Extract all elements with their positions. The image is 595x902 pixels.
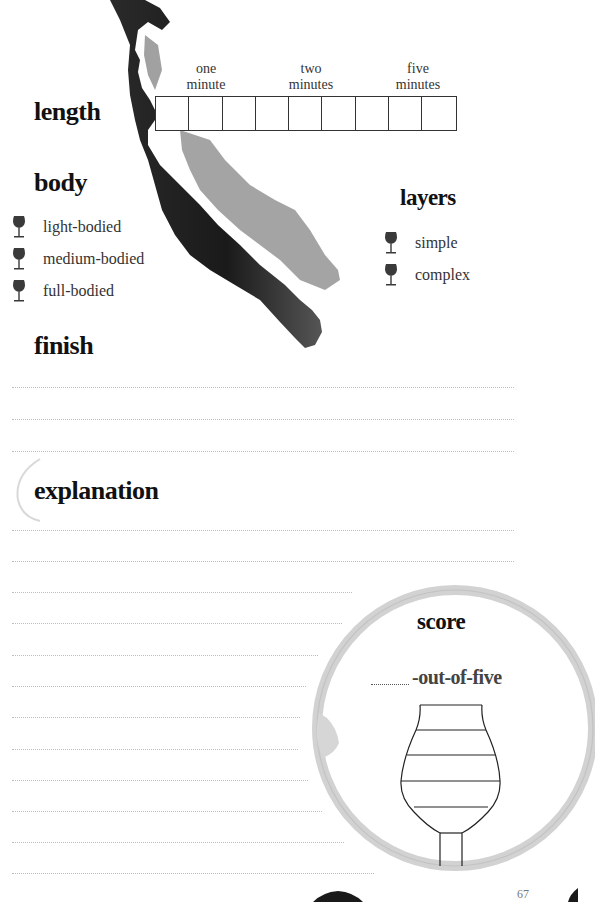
explanation-line-5[interactable] [12,655,318,656]
length-box-8[interactable] [389,97,422,130]
body-option-label: light-bodied [43,218,121,236]
length-box-1[interactable] [156,97,189,130]
layers-option-label: complex [415,266,470,284]
layers-heading: layers [400,185,456,211]
stain-blot-bottom [313,890,363,902]
body-option-full[interactable]: full-bodied [8,275,144,307]
score-suffix: -out-of-five [412,666,502,689]
explanation-line-8[interactable] [12,749,298,750]
explanation-line-7[interactable] [12,717,300,718]
wine-glass-icon [380,263,402,287]
finish-line-1[interactable] [12,387,514,388]
marker-line1: five [378,61,458,77]
wine-glass-icon [8,215,30,239]
body-option-medium[interactable]: medium-bodied [8,243,144,275]
score-input-line[interactable] [371,684,409,685]
page-number: 67 [517,887,529,902]
finish-line-2[interactable] [12,419,514,420]
length-heading: length [34,97,100,127]
length-box-3[interactable] [223,97,256,130]
marker-line1: one [166,61,246,77]
explanation-line-2[interactable] [12,561,514,562]
wine-glass-icon [8,247,30,271]
length-box-4[interactable] [256,97,289,130]
length-box-2[interactable] [189,97,222,130]
explanation-line-4[interactable] [12,623,342,624]
layers-option-complex[interactable]: complex [380,259,470,291]
body-option-light[interactable]: light-bodied [8,211,144,243]
score-glass-icon[interactable] [400,703,505,868]
layers-options: simple complex [380,227,470,291]
length-marker-one-minute: one minute [166,61,246,93]
length-box-9[interactable] [422,97,455,130]
body-option-label: full-bodied [43,282,114,300]
finish-heading: finish [34,331,93,361]
body-option-label: medium-bodied [43,250,144,268]
marker-line2: minutes [271,77,351,93]
wine-glass-icon [380,231,402,255]
explanation-line-9[interactable] [12,780,308,781]
length-checkbox-row [155,96,457,131]
marker-line2: minutes [378,77,458,93]
length-box-6[interactable] [322,97,355,130]
layers-option-label: simple [415,234,458,252]
explanation-line-1[interactable] [12,530,514,531]
score-heading: score [417,609,465,635]
explanation-line-10[interactable] [12,811,322,812]
body-heading: body [34,168,87,198]
body-options: light-bodied medium-bodied full-bodied [8,211,144,307]
marker-line1: two [271,61,351,77]
length-box-5[interactable] [289,97,322,130]
layers-option-simple[interactable]: simple [380,227,470,259]
explanation-heading: explanation [34,476,159,506]
explanation-line-6[interactable] [12,686,306,687]
length-marker-two-minutes: two minutes [271,61,351,93]
stain-blot-corner [568,888,578,902]
explanation-line-3[interactable] [12,592,352,593]
length-marker-five-minutes: five minutes [378,61,458,93]
wine-glass-icon [8,279,30,303]
explanation-line-11[interactable] [12,842,344,843]
finish-line-3[interactable] [12,451,514,452]
marker-line2: minute [166,77,246,93]
length-box-7[interactable] [356,97,389,130]
